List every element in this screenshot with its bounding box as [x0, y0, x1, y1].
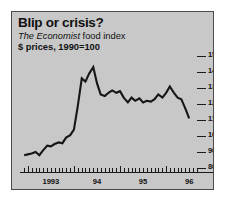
x-axis-month-tick	[78, 168, 79, 172]
x-axis-year-tick	[120, 166, 121, 173]
y-tick-label: 130	[208, 83, 214, 91]
x-axis	[20, 167, 214, 175]
x-axis-month-tick	[197, 168, 198, 172]
y-tick-label: 120	[208, 99, 214, 107]
y-axis: 1501401301201101009080	[197, 50, 214, 174]
x-axis-month-tick	[178, 168, 179, 172]
x-axis-month-tick	[24, 168, 25, 172]
x-axis-month-tick	[112, 168, 113, 172]
chart-panel: Blip or crisis? The Economist food index…	[11, 11, 214, 190]
x-axis-month-tick	[70, 168, 71, 172]
chart-figure: Blip or crisis? The Economist food index…	[0, 0, 231, 203]
y-tick-mark	[197, 56, 206, 57]
x-axis-month-tick	[32, 168, 33, 172]
x-axis-month-tick	[66, 168, 67, 172]
x-axis-month-tick	[55, 168, 56, 172]
subtitle-source: The Economist	[18, 31, 80, 41]
x-axis-month-tick	[39, 168, 40, 172]
x-axis-label: 1993	[42, 177, 59, 186]
x-axis-label: 94	[93, 177, 101, 186]
chart-units: $ prices, 1990=100	[18, 42, 193, 53]
y-tick-mark	[197, 104, 206, 105]
x-axis-month-tick	[51, 168, 52, 172]
x-axis-month-tick	[36, 168, 37, 172]
plot-area	[20, 56, 197, 168]
x-axis-month-tick	[174, 168, 175, 172]
x-axis-month-tick	[143, 168, 144, 172]
x-axis-month-tick	[43, 168, 44, 172]
x-axis-line	[20, 172, 214, 173]
x-axis-month-tick	[124, 168, 125, 172]
x-axis-label: 96	[185, 177, 193, 186]
x-axis-month-tick	[181, 168, 182, 172]
x-axis-year-tick	[74, 166, 75, 173]
subtitle-rest: food index	[80, 31, 126, 41]
x-axis-month-tick	[89, 168, 90, 172]
x-axis-month-tick	[97, 168, 98, 172]
x-axis-month-tick	[47, 168, 48, 172]
x-axis-month-tick	[162, 168, 163, 172]
x-axis-month-tick	[170, 168, 171, 172]
x-axis-year-tick	[28, 166, 29, 173]
x-axis-month-tick	[93, 168, 94, 172]
y-tick-label: 140	[208, 67, 214, 75]
x-axis-labels: 1993949596	[20, 177, 214, 189]
x-axis-month-tick	[147, 168, 148, 172]
y-tick-label: 90	[208, 147, 214, 155]
x-axis-month-tick	[109, 168, 110, 172]
chart-subtitle: The Economist food index	[18, 31, 193, 42]
data-line	[24, 67, 189, 155]
x-axis-month-tick	[62, 168, 63, 172]
x-axis-label: 95	[139, 177, 147, 186]
x-axis-month-tick	[185, 168, 186, 172]
x-axis-month-tick	[101, 168, 102, 172]
y-tick-mark	[197, 72, 206, 73]
y-tick-mark	[197, 88, 206, 89]
y-tick-label: 110	[208, 115, 214, 123]
x-axis-month-tick	[189, 168, 190, 172]
x-axis-month-tick	[193, 168, 194, 172]
x-axis-month-tick	[139, 168, 140, 172]
x-axis-month-tick	[155, 168, 156, 172]
x-axis-month-tick	[135, 168, 136, 172]
x-axis-month-tick	[105, 168, 106, 172]
x-axis-month-tick	[85, 168, 86, 172]
y-tick-label: 100	[208, 131, 214, 139]
y-tick-mark	[197, 152, 206, 153]
x-axis-month-tick	[82, 168, 83, 172]
y-tick-mark	[197, 120, 206, 121]
x-axis-month-tick	[128, 168, 129, 172]
data-line-svg	[20, 56, 197, 168]
x-axis-month-tick	[59, 168, 60, 172]
x-axis-month-tick	[158, 168, 159, 172]
chart-title: Blip or crisis?	[18, 15, 193, 30]
x-axis-month-tick	[116, 168, 117, 172]
y-tick-label: 150	[208, 51, 214, 59]
x-axis-month-tick	[151, 168, 152, 172]
x-axis-year-tick	[166, 166, 167, 173]
y-tick-mark	[197, 136, 206, 137]
x-axis-month-tick	[132, 168, 133, 172]
title-block: Blip or crisis? The Economist food index…	[18, 15, 193, 53]
